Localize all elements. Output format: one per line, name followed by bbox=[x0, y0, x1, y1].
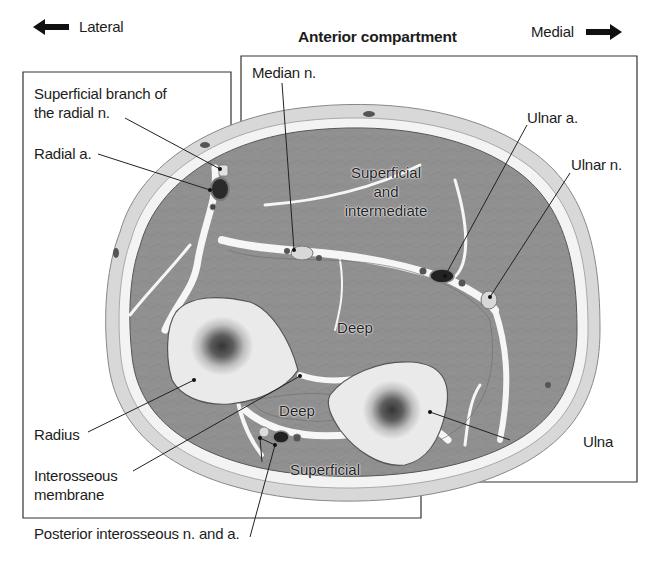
region-posterior-superficial: Superficial bbox=[270, 460, 380, 479]
arrow-left-icon bbox=[33, 19, 69, 35]
label-ulna: Ulna bbox=[583, 432, 613, 451]
label-radius: Radius bbox=[34, 425, 80, 444]
arrow-right-icon bbox=[586, 24, 622, 40]
medial-label: Medial bbox=[531, 22, 574, 41]
anterior-compartment-title: Anterior compartment bbox=[298, 27, 457, 46]
label-ulnar-nerve: Ulnar n. bbox=[571, 155, 622, 174]
label-ulnar-artery: Ulnar a. bbox=[527, 108, 578, 127]
label-posterior-interosseous: Posterior interosseous n. and a. bbox=[34, 524, 239, 543]
label-median-nerve: Median n. bbox=[252, 63, 316, 82]
region-anterior-superficial: Superficial and intermediate bbox=[316, 163, 456, 220]
region-posterior-deep: Deep bbox=[262, 401, 332, 420]
lateral-label: Lateral bbox=[79, 17, 123, 36]
region-anterior-deep: Deep bbox=[320, 318, 390, 337]
label-superficial-branch-radial-nerve: Superficial branch of the radial n. bbox=[34, 84, 167, 122]
label-interosseous-membrane: Interosseous membrane bbox=[34, 466, 117, 504]
label-radial-artery: Radial a. bbox=[34, 144, 91, 163]
